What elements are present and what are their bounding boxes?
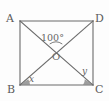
angle-label-100-degrees: 100°	[41, 33, 64, 43]
vertex-label-c: C	[95, 84, 103, 95]
geometry-figure: A D B C O 100° x y	[0, 0, 109, 101]
center-point-label-o: O	[52, 52, 60, 62]
vertex-label-b: B	[7, 84, 15, 95]
vertex-label-a: A	[6, 13, 14, 24]
vertex-label-d: D	[95, 13, 104, 24]
angle-label-y: y	[82, 67, 87, 76]
angle-label-x: x	[29, 75, 34, 84]
